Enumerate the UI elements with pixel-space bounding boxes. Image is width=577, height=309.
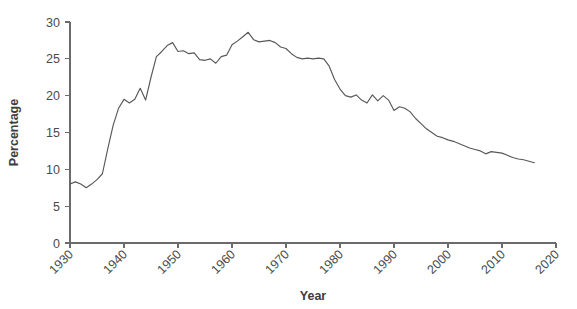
y-tick-label: 30: [46, 16, 60, 30]
x-tick-label: 1970: [263, 247, 293, 277]
y-tick-label: 20: [46, 89, 60, 103]
y-tick-label: 0: [53, 237, 60, 251]
x-tick-label: 1940: [101, 247, 131, 277]
data-series-line: [70, 32, 534, 187]
x-tick-label: 2020: [533, 247, 563, 277]
y-axis-title: Percentage: [7, 99, 21, 166]
x-tick-label: 1980: [317, 247, 347, 277]
line-chart: 051015202530 193019401950196019701980199…: [0, 0, 577, 309]
x-axis-ticks: 1930194019501960197019801990200020102020: [47, 243, 563, 277]
y-tick-label: 15: [46, 126, 60, 140]
y-tick-label: 25: [46, 52, 60, 66]
x-tick-label: 2000: [425, 247, 455, 277]
x-tick-label: 2010: [479, 247, 509, 277]
y-axis-ticks: 051015202530: [46, 16, 70, 251]
y-tick-label: 5: [53, 200, 60, 214]
y-tick-label: 10: [46, 163, 60, 177]
x-axis-title: Year: [300, 289, 327, 303]
x-tick-label: 1950: [155, 247, 185, 277]
chart-canvas: 051015202530 193019401950196019701980199…: [0, 0, 577, 309]
x-tick-label: 1960: [209, 247, 239, 277]
x-tick-label: 1990: [371, 247, 401, 277]
x-tick-label: 1930: [47, 247, 77, 277]
